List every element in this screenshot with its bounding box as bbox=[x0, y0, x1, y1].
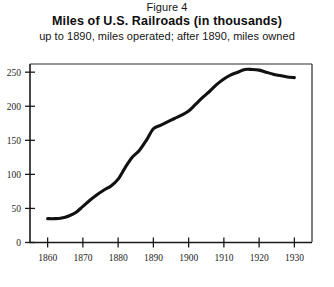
figure-number: Figure 4 bbox=[0, 1, 334, 14]
y-tick-label: 150 bbox=[7, 136, 22, 146]
y-axis: 050100150200250 bbox=[7, 64, 35, 248]
y-tick-label: 100 bbox=[7, 170, 22, 180]
y-tick-label: 0 bbox=[16, 238, 21, 248]
data-series-line bbox=[48, 69, 295, 218]
x-tick-label: 1920 bbox=[250, 253, 269, 263]
x-tick-label: 1870 bbox=[73, 253, 92, 263]
y-tick-labels: 050100150200250 bbox=[7, 68, 22, 248]
x-tick-labels: 18601870188018901900191019201930 bbox=[38, 253, 304, 263]
x-tick-label: 1860 bbox=[38, 253, 57, 263]
chart-plot-area: 050100150200250 186018701880189019001910… bbox=[0, 55, 334, 287]
y-tick-label: 250 bbox=[7, 68, 22, 78]
title-block: Figure 4 Miles of U.S. Railroads (in tho… bbox=[0, 1, 334, 43]
x-tick-label: 1890 bbox=[144, 253, 163, 263]
x-tick-label: 1930 bbox=[285, 253, 304, 263]
x-tick-label: 1910 bbox=[214, 253, 233, 263]
y-tick-label: 200 bbox=[7, 102, 22, 112]
figure-title: Miles of U.S. Railroads (in thousands) bbox=[0, 14, 334, 29]
figure-subtitle: up to 1890, miles operated; after 1890, … bbox=[0, 29, 334, 43]
line-chart-svg: 050100150200250 186018701880189019001910… bbox=[0, 55, 334, 287]
x-tick-label: 1900 bbox=[179, 253, 198, 263]
figure-root: Figure 4 Miles of U.S. Railroads (in tho… bbox=[0, 0, 334, 287]
x-axis: 18601870188018901900191019201930 bbox=[29, 238, 312, 263]
x-tick-label: 1880 bbox=[109, 253, 128, 263]
y-tick-label: 50 bbox=[12, 204, 22, 214]
